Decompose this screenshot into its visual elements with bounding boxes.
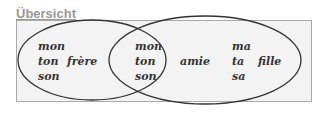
word-left-ton: ton (38, 55, 58, 68)
word-amie: amie (180, 55, 210, 68)
word-left-son: son (38, 70, 60, 83)
word-frere: frère (67, 55, 97, 68)
word-ta: ta (232, 55, 244, 68)
word-left-mon: mon (38, 40, 65, 53)
word-mid-son: son (135, 70, 157, 83)
word-mid-ton: ton (135, 55, 155, 68)
word-ma: ma (232, 40, 251, 53)
word-sa: sa (232, 70, 245, 83)
word-mid-mon: mon (135, 40, 162, 53)
word-fille: fille (258, 55, 281, 68)
